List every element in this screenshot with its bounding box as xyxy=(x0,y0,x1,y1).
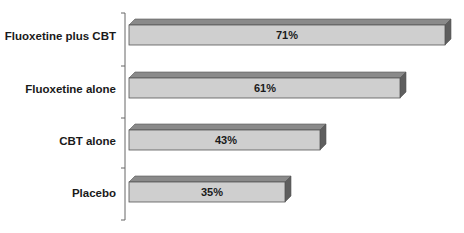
value-label: 35% xyxy=(201,186,223,198)
category-labels: Fluoxetine plus CBT Fluoxetine alone CBT… xyxy=(5,30,116,199)
bar-placebo: 35% xyxy=(129,176,291,202)
value-label: 43% xyxy=(215,134,237,146)
category-label: Placebo xyxy=(72,187,116,199)
bar-chart: Fluoxetine plus CBT Fluoxetine alone CBT… xyxy=(0,0,464,233)
value-label: 61% xyxy=(254,82,276,94)
value-label: 71% xyxy=(276,29,298,41)
category-label: CBT alone xyxy=(59,135,116,147)
category-label: Fluoxetine alone xyxy=(25,83,116,95)
category-label: Fluoxetine plus CBT xyxy=(5,30,116,42)
bar-cbt-alone: 43% xyxy=(129,124,326,150)
bar-fluoxetine-plus-cbt: 71% xyxy=(129,19,451,45)
bar-fluoxetine-alone: 61% xyxy=(129,72,406,98)
y-axis xyxy=(121,13,125,220)
